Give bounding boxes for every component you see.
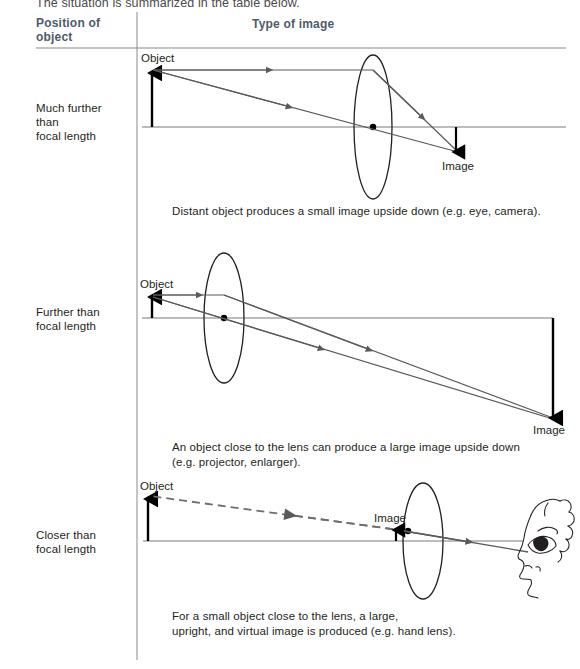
- diagram-much-further: Object Image: [141, 52, 566, 199]
- observer-face-icon: [518, 500, 574, 599]
- diagram-canvas: Object Image Object Image: [0, 0, 580, 669]
- pupil-path: [533, 537, 548, 552]
- face-profile-path: [518, 515, 538, 598]
- cheek-path: [536, 567, 540, 571]
- hair-curl-2: [566, 526, 573, 539]
- diagram-further-than: Object Image: [140, 253, 565, 436]
- hair-curl-1: [568, 512, 574, 526]
- ray-centre-arrow-1: [153, 70, 290, 107]
- hair-curl-4: [558, 551, 562, 562]
- hair-curl-3: [560, 539, 569, 552]
- image-label-2: Image: [533, 424, 565, 436]
- object-label-3: Object: [140, 480, 174, 492]
- eyebrow-path: [538, 527, 557, 534]
- diagram-closer-than: Object Image: [140, 480, 574, 599]
- ray-to-eye-arrow-3: [404, 531, 470, 542]
- nostril-path: [525, 566, 532, 568]
- image-label-1: Image: [442, 160, 474, 172]
- hairline-path: [545, 503, 548, 516]
- ray-refracted-arrow-1: [373, 70, 423, 118]
- object-label-1: Object: [141, 52, 175, 64]
- image-label-3: Image: [374, 512, 406, 524]
- lens-diagram-page: The situation is summarized in the table…: [0, 0, 580, 669]
- virtual-ray-dashed-3: [150, 496, 406, 531]
- hair-top-path: [560, 500, 571, 512]
- object-label-2: Object: [140, 278, 174, 290]
